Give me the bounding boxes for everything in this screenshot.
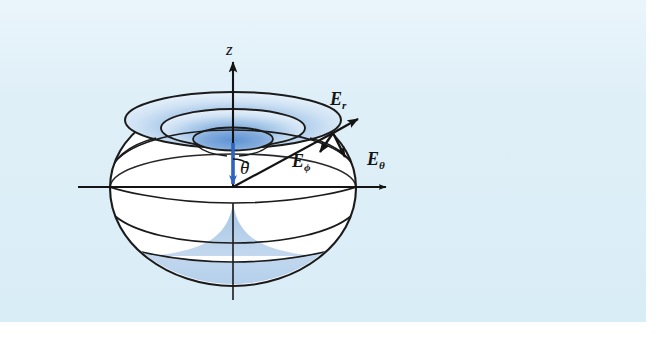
angle-label-theta: θ [240, 158, 249, 177]
vector-base-E-theta: E [367, 149, 379, 169]
vector-subscript-E-phi: ϕ [304, 161, 310, 173]
vector-label-E-theta: Eθ [367, 150, 385, 171]
toroid-diagram-artwork [0, 0, 668, 339]
vector-subscript-E-r: r [342, 99, 346, 111]
axis-label-z: z [226, 41, 233, 58]
vector-label-E-phi: Eϕ [292, 152, 310, 173]
vector-subscript-E-theta: θ [379, 159, 385, 171]
vector-base-E-r: E [330, 89, 342, 109]
vector-label-E-r: Er [330, 90, 346, 111]
radiation-pattern-figure: z θ Er Eϕ Eθ [0, 0, 668, 339]
vector-base-E-phi: E [292, 151, 304, 171]
